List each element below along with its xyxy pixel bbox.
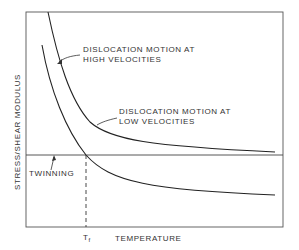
y-axis-label: STRESS/SHEAR MODULUS [13,74,22,190]
low-velocity-leader [97,118,117,125]
stress-temperature-diagram: DISLOCATION MOTION AT HIGH VELOCITIES DI… [0,0,299,250]
high-velocity-label-line2: HIGH VELOCITIES [83,55,161,64]
low-velocity-label-line1: DISLOCATION MOTION AT [119,107,231,116]
high-velocity-leader [59,55,80,62]
twinning-arrow-icon [52,155,56,161]
low-velocity-label-line2: LOW VELOCITIES [119,117,195,126]
tf-label: Tf [83,233,91,243]
twinning-label: TWINNING [29,169,74,178]
x-axis-label: TEMPERATURE [115,234,181,243]
high-velocity-curve [48,12,275,152]
high-velocity-label-line1: DISLOCATION MOTION AT [83,45,195,54]
